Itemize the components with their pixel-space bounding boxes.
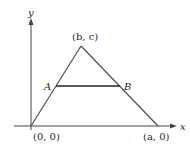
triangle-diagram: y x (b, c) A B (0, 0) (a, 0) — [0, 0, 190, 151]
point-a-label: A — [43, 81, 51, 92]
apex-label: (b, c) — [72, 31, 98, 42]
origin-label: (0, 0) — [33, 131, 60, 142]
base-right-label: (a, 0) — [143, 131, 170, 142]
y-axis-label: y — [27, 7, 34, 18]
x-axis-arrow-icon — [170, 124, 177, 129]
x-axis-label: x — [180, 121, 186, 132]
y-axis-arrow-icon — [29, 18, 34, 25]
point-b-label: B — [123, 81, 131, 92]
